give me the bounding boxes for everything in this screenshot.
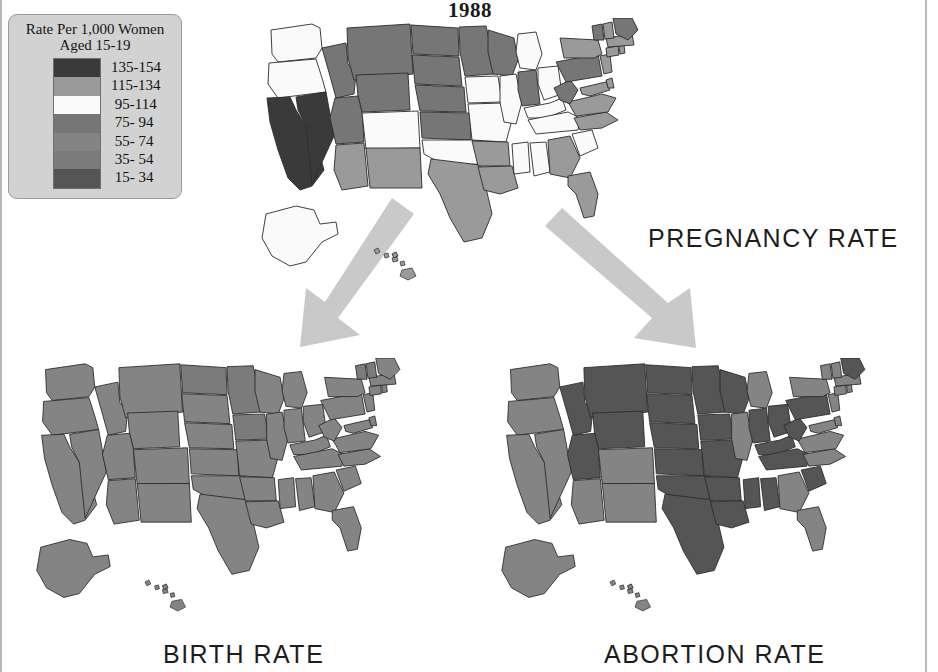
caption-pregnancy-rate: PREGNANCY RATE — [648, 224, 899, 253]
state-la — [245, 501, 284, 528]
state-nh — [831, 362, 842, 378]
state-md — [580, 82, 610, 96]
state-ar — [472, 141, 510, 166]
state-al — [761, 478, 780, 511]
state-de — [369, 416, 377, 426]
state-co — [133, 448, 189, 485]
state-wa — [511, 364, 560, 401]
state-hi-island-4 — [400, 268, 416, 280]
state-fl — [797, 507, 826, 551]
state-nh — [366, 362, 377, 378]
state-ia — [698, 414, 734, 440]
state-de — [834, 416, 842, 426]
state-vt — [592, 24, 604, 40]
state-vt — [820, 364, 832, 379]
state-wy — [593, 411, 645, 449]
state-md — [344, 420, 373, 434]
state-nj — [363, 393, 375, 412]
state-hi-island-3 — [400, 261, 405, 266]
map-figure-page: 1988 Rate Per 1,000 Women Aged 15-19 135… — [0, 0, 938, 672]
state-wy — [356, 73, 410, 112]
state-la — [478, 166, 518, 194]
state-hi-island-4 — [635, 599, 650, 611]
state-fl — [568, 172, 598, 218]
state-ks — [654, 449, 703, 476]
state-hi-island-2 — [392, 257, 398, 262]
state-hi-island-2 — [627, 589, 633, 594]
state-nj — [828, 393, 840, 412]
state-va — [332, 431, 378, 452]
state-ne — [415, 85, 466, 112]
state-ak — [37, 540, 110, 598]
state-nh — [603, 22, 614, 39]
state-sd — [412, 55, 462, 86]
state-wi — [488, 30, 518, 76]
state-ms — [512, 142, 530, 174]
state-ia — [465, 76, 502, 103]
state-ak — [502, 540, 575, 598]
state-az — [106, 479, 139, 524]
state-ct — [834, 385, 847, 396]
state-mt — [584, 364, 648, 418]
state-ms — [743, 478, 760, 509]
state-nm — [137, 484, 191, 523]
state-co — [598, 448, 654, 485]
state-sd — [182, 394, 230, 424]
state-ms — [278, 478, 295, 509]
state-al — [296, 478, 315, 511]
state-al — [530, 142, 550, 176]
state-ks — [189, 449, 238, 476]
state-ny — [790, 377, 831, 396]
caption-abortion-rate: ABORTION RATE — [604, 640, 825, 669]
state-or — [268, 59, 326, 98]
state-in — [749, 408, 770, 443]
state-ut — [330, 96, 364, 144]
state-wi — [255, 370, 284, 414]
state-nm — [366, 148, 422, 188]
state-mi — [282, 372, 307, 409]
state-ct — [369, 385, 382, 396]
state-mt — [119, 364, 183, 418]
state-hi-island-1 — [155, 585, 160, 590]
state-nj — [600, 54, 612, 74]
state-ne — [185, 423, 234, 449]
state-hi-island-3 — [170, 593, 175, 598]
state-co — [362, 111, 420, 149]
state-fl — [332, 507, 361, 551]
state-ne — [650, 423, 699, 449]
state-az — [334, 143, 368, 190]
caption-birth-rate: BIRTH RATE — [163, 640, 324, 669]
state-nd — [411, 25, 459, 56]
map-abortion-rate — [478, 358, 908, 638]
state-ak — [262, 206, 338, 266]
state-hi-island-1 — [384, 253, 389, 258]
state-hi-island-0 — [145, 580, 151, 586]
state-az — [571, 479, 604, 524]
state-wa — [46, 364, 95, 401]
state-sd — [647, 394, 695, 424]
state-ny — [325, 377, 366, 396]
state-ks — [420, 112, 471, 140]
state-wy — [128, 411, 180, 449]
state-va — [797, 431, 843, 452]
map-birth-rate — [18, 358, 438, 638]
state-hi-island-0 — [610, 580, 616, 586]
state-in — [284, 408, 305, 443]
state-nd — [646, 365, 692, 395]
state-mt — [347, 24, 413, 80]
state-or — [43, 398, 99, 436]
state-in — [518, 70, 540, 106]
state-de — [606, 78, 614, 88]
state-la — [710, 501, 749, 528]
state-hi-island-2 — [162, 589, 168, 594]
state-hi-island-1 — [620, 585, 625, 590]
state-nd — [181, 365, 227, 395]
state-ar — [240, 477, 277, 501]
state-mi — [516, 32, 542, 70]
state-md — [809, 420, 838, 434]
state-nm — [602, 484, 656, 523]
state-ny — [560, 38, 602, 58]
map-pregnancy-rate — [250, 18, 670, 308]
state-ar — [705, 477, 742, 501]
state-wa — [271, 24, 322, 62]
